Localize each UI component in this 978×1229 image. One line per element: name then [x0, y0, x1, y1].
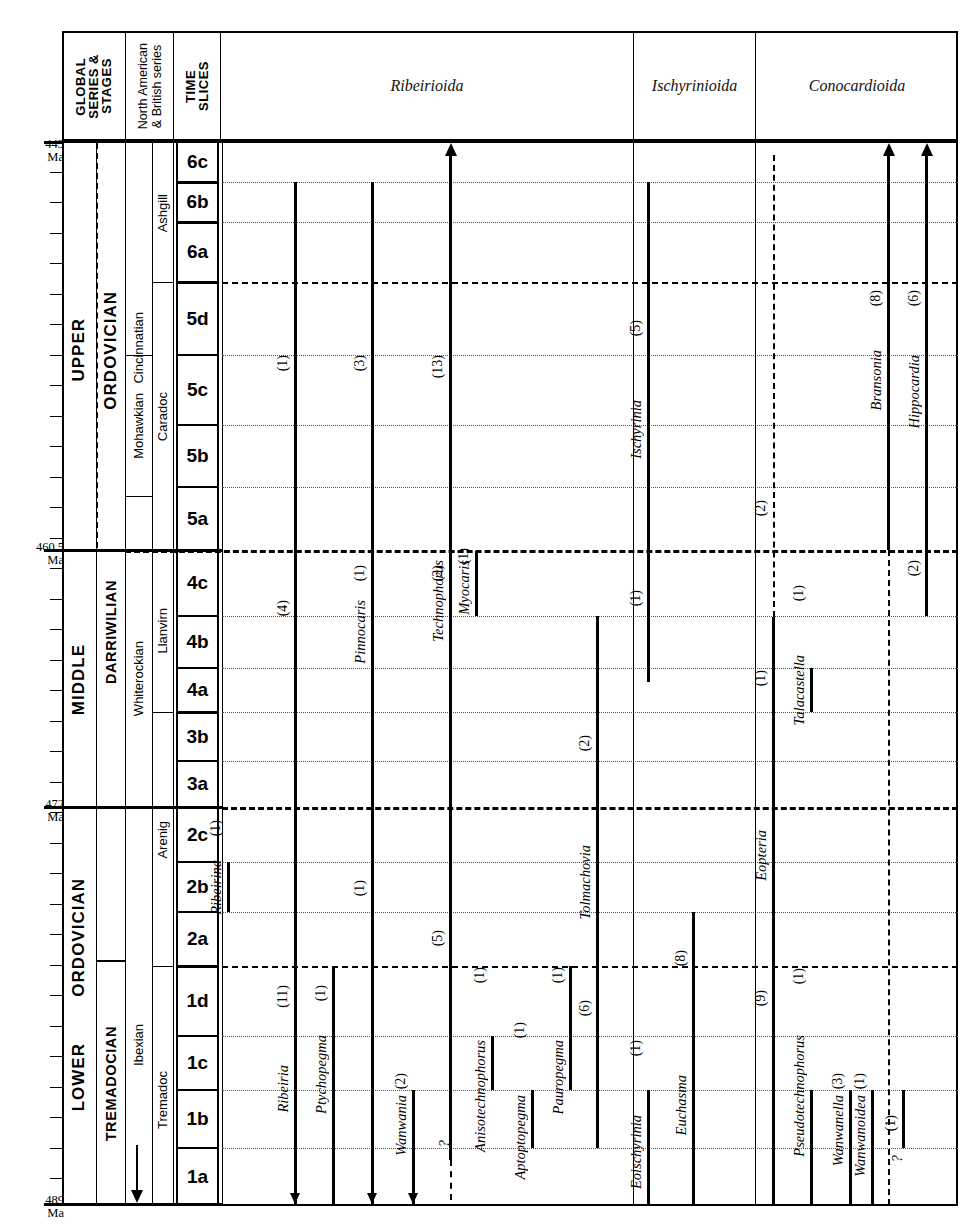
range-dashed-upper-eopteria: [773, 155, 775, 617]
british-series-llanvirn: Llanvirn: [152, 551, 173, 711]
age-tick: [50, 507, 62, 508]
time-slice-cell-4a[interactable]: 4a: [178, 668, 217, 712]
taxon-count-ischyrinia-0: (5): [628, 320, 644, 336]
age-tick: [50, 629, 62, 630]
age-tick: [50, 660, 62, 661]
range-bar-tolmachovia[interactable]: [596, 616, 599, 1148]
age-tick: [50, 324, 62, 325]
time-slice-cell-6b[interactable]: 6b: [178, 182, 217, 222]
age-tick: [50, 965, 62, 966]
range-bar-eoischyrinia[interactable]: [647, 1090, 650, 1205]
range-bar-ribeirina[interactable]: [227, 862, 230, 912]
range-up-arrow-technophorus: [445, 143, 457, 156]
time-slice-cell-6c[interactable]: 6c: [178, 141, 217, 182]
time-slice-cell-5a[interactable]: 5a: [178, 487, 217, 550]
taxon-label-euchasma: Euchasma: [673, 1075, 690, 1135]
time-slice-cell-1d[interactable]: 1d: [178, 966, 217, 1036]
range-bar-myocaris[interactable]: [475, 551, 478, 616]
boundary-upper-middle-ordovician: [125, 550, 958, 553]
time-slice-cell-5b[interactable]: 5b: [178, 425, 217, 487]
range-bar-ischyrinia[interactable]: [647, 182, 650, 682]
range-chart-figure: GLOBAL SERIES & STAGES North American & …: [0, 0, 978, 1229]
age-tick: [50, 172, 62, 173]
british-arenig-base: [152, 966, 173, 967]
boundary-sandbian-darriwilian: [222, 282, 958, 284]
time-slice-label-5c: 5c: [187, 379, 208, 401]
time-slice-label-3a: 3a: [187, 773, 208, 795]
range-bar-wanwanoidea[interactable]: [871, 1090, 874, 1205]
range-bar-technophorus[interactable]: [449, 155, 452, 1160]
taxon-count-technophorus-0: (13): [430, 355, 446, 378]
time-slice-label-1c: 1c: [187, 1052, 208, 1074]
time-slice-label-1a: 1a: [187, 1166, 208, 1188]
taxon-count-pauropegma-0: (1): [550, 967, 566, 983]
time-slice-cell-1b[interactable]: 1b: [178, 1090, 217, 1148]
taxon-count-anisotechnophorus-0: (1): [472, 967, 488, 983]
taxon-count-ptychopegma-0: (1): [313, 985, 329, 1001]
time-slice-cell-2a[interactable]: 2a: [178, 912, 217, 966]
range-bar-euchasma[interactable]: [692, 912, 695, 1205]
time-slice-cell-1a[interactable]: 1a: [178, 1148, 217, 1205]
taxon-count-talacastella-0: (1): [791, 585, 807, 601]
time-slice-cell-5d[interactable]: 5d: [178, 282, 217, 355]
time-slice-cell-3a[interactable]: 3a: [178, 761, 217, 807]
range-bar-queried-taxon[interactable]: [902, 1090, 905, 1148]
gridline-11: [222, 761, 958, 762]
range-down-arrow-ribeiria: [290, 1193, 300, 1204]
range-bar-bransonia[interactable]: [887, 155, 890, 550]
age-tick: [50, 568, 62, 569]
range-bar-talacastella[interactable]: [810, 668, 813, 712]
taxon-count-myocaris-0: (1): [456, 548, 472, 564]
global-series-upper: UPPER: [62, 150, 96, 550]
gridline-4: [222, 355, 958, 356]
range-bar-eopteria[interactable]: [772, 617, 775, 1205]
age-tick: [50, 355, 62, 356]
age-tick: [50, 904, 62, 905]
header-namerican-line-1: North American: [136, 43, 150, 129]
taxon-label-pseudotechnophorus: Pseudotechnophorus: [791, 1035, 808, 1157]
taxon-count-ribeirina-0: (1): [208, 820, 224, 836]
range-bar-hippocardia[interactable]: [925, 155, 928, 616]
age-tick: [50, 1148, 62, 1149]
age-label-460: 460.5 Ma: [8, 541, 64, 567]
taxon-count-ribeiria-0: (1): [275, 355, 291, 371]
taxon-label-ribeirina: Ribeirina: [208, 860, 225, 915]
range-bar-ribeiria[interactable]: [294, 182, 297, 1205]
header-superfamily-ribeirioida: Ribeirioida: [220, 31, 633, 141]
range-bar-wanwania[interactable]: [412, 1090, 415, 1205]
range-bar-pauropegma[interactable]: [569, 966, 572, 1090]
range-bar-pseudotechnophorus[interactable]: [810, 1090, 813, 1205]
taxon-count-tolmachovia-1: (6): [577, 1000, 593, 1016]
superfamily-label-ribeirioida: Ribeirioida: [391, 77, 464, 95]
age-tick: [50, 294, 62, 295]
age-datum-tick: [44, 1203, 62, 1206]
namerican-series-whiterockian: Whiterockian: [125, 552, 152, 805]
time-slice-cell-3b[interactable]: 3b: [178, 712, 217, 761]
gridline-6: [222, 487, 958, 488]
taxon-label-wanwania: Wanwania: [393, 1095, 410, 1156]
taxon-label-anisotechnophorus: Anisotechnophorus: [472, 1040, 489, 1152]
header-global-series-stages: GLOBAL SERIES & STAGES: [62, 31, 125, 141]
time-slice-cell-4c[interactable]: 4c: [178, 550, 217, 616]
range-bar-pinnocaris[interactable]: [371, 182, 374, 1205]
taxon-count-pinnocaris-1: (1): [352, 565, 368, 581]
boundary-middle-lower-ordovician: [222, 807, 958, 810]
time-slice-cell-1c[interactable]: 1c: [178, 1036, 217, 1090]
age-label-489: 489 Ma: [18, 1194, 64, 1220]
global-stage-ordovician-lower: ORDOVICIAN: [62, 830, 96, 1045]
taxon-count-technophorus-1: (2): [430, 565, 446, 581]
range-bar-anisotechnophorus[interactable]: [491, 1036, 494, 1090]
taxon-label-wanwanella: Wanwanella: [830, 1095, 847, 1166]
range-bar-aptoptopegma[interactable]: [531, 1090, 534, 1148]
time-slice-cell-6a[interactable]: 6a: [178, 222, 217, 282]
age-unit-489: Ma: [47, 1206, 64, 1220]
ibexian-base-arrow: [131, 1145, 143, 1203]
range-bar-ptychopegma[interactable]: [332, 966, 335, 1205]
time-slice-label-3b: 3b: [186, 726, 208, 748]
time-slice-cell-5c[interactable]: 5c: [178, 355, 217, 425]
global-stage-darriwilian: DARRIWILIAN: [96, 552, 125, 712]
range-dashed-lower-bransonia: [888, 550, 890, 1205]
time-slice-cell-4b[interactable]: 4b: [178, 616, 217, 668]
global-stage-tremadocian: TREMADOCIAN: [96, 962, 125, 1205]
taxon-count-euchasma-0: (8): [673, 950, 689, 966]
